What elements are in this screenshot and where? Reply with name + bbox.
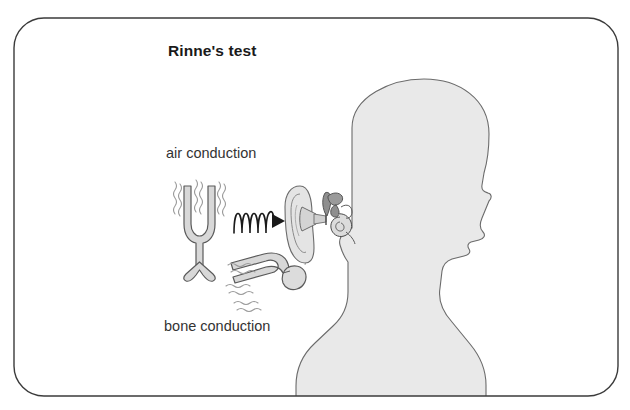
figure-frame: [0, 0, 630, 410]
rinne-test-figure: Rinne's test air conduction bone conduct…: [0, 0, 630, 410]
vibration-squiggles-air: [174, 180, 226, 216]
tuning-fork-tines-air: [184, 186, 215, 265]
bone-conduction-label: bone conduction: [164, 318, 270, 334]
tuning-fork-tines-bone: [231, 253, 290, 283]
air-conduction-tuning-fork: [174, 180, 226, 281]
tuning-fork-base-air: [184, 262, 216, 281]
figure-title: Rinne's test: [168, 42, 256, 60]
bone-conduction-tuning-fork: [226, 253, 306, 311]
ear-canal-tube: [314, 214, 326, 224]
head-and-neck-silhouette: [296, 79, 491, 400]
arrowhead-icon: [272, 214, 285, 228]
air-conduction-label: air conduction: [166, 145, 256, 161]
sound-wave-line: [234, 212, 276, 233]
stapes-bone: [331, 205, 339, 217]
frame-border: [14, 18, 618, 396]
tuning-fork-base-bone: [282, 266, 306, 290]
sound-wave-arrow: [234, 212, 285, 233]
head-silhouette-group: [296, 79, 491, 400]
